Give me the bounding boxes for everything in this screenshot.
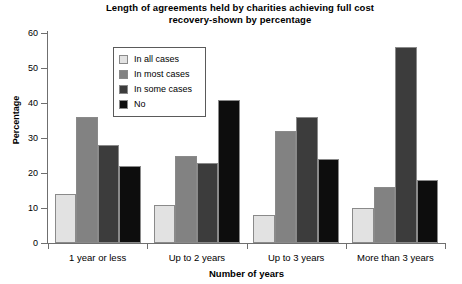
bar <box>119 166 141 243</box>
bar <box>395 47 417 243</box>
y-axis-tick-label: 10 <box>0 204 38 213</box>
bar <box>154 205 176 244</box>
legend-item-label: In some cases <box>134 85 192 94</box>
y-axis-tick <box>41 33 47 34</box>
legend-swatch-icon <box>119 70 128 79</box>
bar <box>352 208 374 243</box>
chart-legend: In all casesIn most casesIn some casesNo <box>113 47 206 117</box>
x-axis-tick <box>445 244 446 249</box>
legend-item: In all cases <box>119 52 200 67</box>
y-axis-tick-label: 60 <box>0 29 38 38</box>
bar <box>218 100 240 244</box>
bar <box>318 159 340 243</box>
y-axis-tick <box>41 68 47 69</box>
legend-item: In most cases <box>119 67 200 82</box>
y-axis-tick-label: 20 <box>0 169 38 178</box>
y-axis-tick-label: 50 <box>0 64 38 73</box>
y-axis-tick <box>41 243 47 244</box>
bar <box>175 156 197 244</box>
bar-chart: Length of agreements held by charities a… <box>0 0 462 284</box>
legend-item-label: In all cases <box>134 55 179 64</box>
y-axis-tick <box>41 208 47 209</box>
bar <box>76 117 98 243</box>
bar <box>275 131 297 243</box>
chart-title-line-2: recovery-shown by percentage <box>169 14 312 25</box>
bars-layer <box>48 33 445 243</box>
y-axis-tick <box>41 173 47 174</box>
legend-swatch-icon <box>119 85 128 94</box>
x-axis-tick <box>346 244 347 249</box>
y-axis-tick <box>41 138 47 139</box>
chart-title: Length of agreements held by charities a… <box>60 2 420 26</box>
x-axis-category-label: 1 year or less <box>48 252 147 263</box>
x-axis-tick <box>147 244 148 249</box>
legend-item-label: No <box>134 100 146 109</box>
bar <box>253 215 275 243</box>
x-axis-tick <box>247 244 248 249</box>
bar <box>55 194 77 243</box>
y-axis-tick <box>41 103 47 104</box>
legend-swatch-icon <box>119 100 128 109</box>
x-axis-tick <box>48 244 49 249</box>
legend-item: No <box>119 97 200 112</box>
x-axis-category-label: More than 3 years <box>346 252 445 263</box>
legend-swatch-icon <box>119 55 128 64</box>
x-axis-category-label: Up to 3 years <box>247 252 346 263</box>
bar <box>374 187 396 243</box>
x-axis-title: Number of years <box>48 268 445 279</box>
legend-item-label: In most cases <box>134 70 190 79</box>
x-axis-category-label: Up to 2 years <box>147 252 246 263</box>
y-axis-title: Percentage <box>11 80 21 160</box>
y-axis-tick-label: 0 <box>0 239 38 248</box>
bar <box>98 145 120 243</box>
bar <box>296 117 318 243</box>
chart-title-line-1: Length of agreements held by charities a… <box>106 2 374 13</box>
legend-item: In some cases <box>119 82 200 97</box>
bar <box>197 163 219 244</box>
bar <box>417 180 439 243</box>
